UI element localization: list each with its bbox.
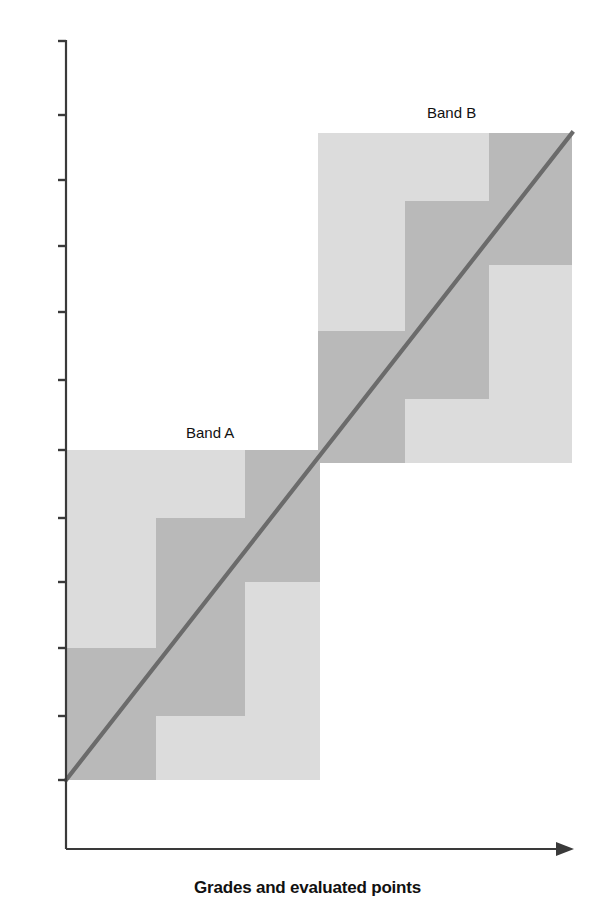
band-a-grade2-light-low: [156, 716, 245, 780]
band-b-grade6-dark: [489, 133, 572, 265]
band-b-grade5-dark: [405, 201, 489, 399]
band-a-grade2-dark: [156, 518, 245, 716]
band-b-grade5-light-low: [405, 399, 489, 463]
band-b-grade6-light-low: [489, 265, 572, 463]
plot-area: [0, 0, 615, 922]
band-a-grade2-light-high: [156, 450, 245, 518]
x-axis-label: Grades and evaluated points: [0, 878, 615, 898]
band-a-grade3-light-low: [245, 582, 320, 780]
x-axis-arrow-icon: [556, 842, 574, 856]
wage-structure-chart: Wage rates, dollars Band A Band B: [0, 0, 615, 922]
band-b-grade4-light: [318, 133, 405, 331]
band-a-grade1-light: [66, 450, 156, 648]
band-b-grade5-light-high: [405, 133, 489, 201]
